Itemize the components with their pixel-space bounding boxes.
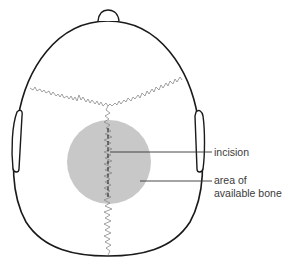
skull-diagram	[0, 0, 286, 264]
coronal-suture	[30, 77, 182, 106]
bone-label-line2: available bone	[214, 187, 282, 200]
top-nub	[98, 10, 119, 21]
incision-label: incision	[214, 146, 249, 159]
right-ear	[195, 111, 205, 172]
available-bone-label: area of available bone	[214, 174, 282, 200]
left-ear	[12, 110, 22, 172]
incision-label-text: incision	[214, 146, 249, 158]
bone-label-line1: area of	[214, 174, 282, 187]
